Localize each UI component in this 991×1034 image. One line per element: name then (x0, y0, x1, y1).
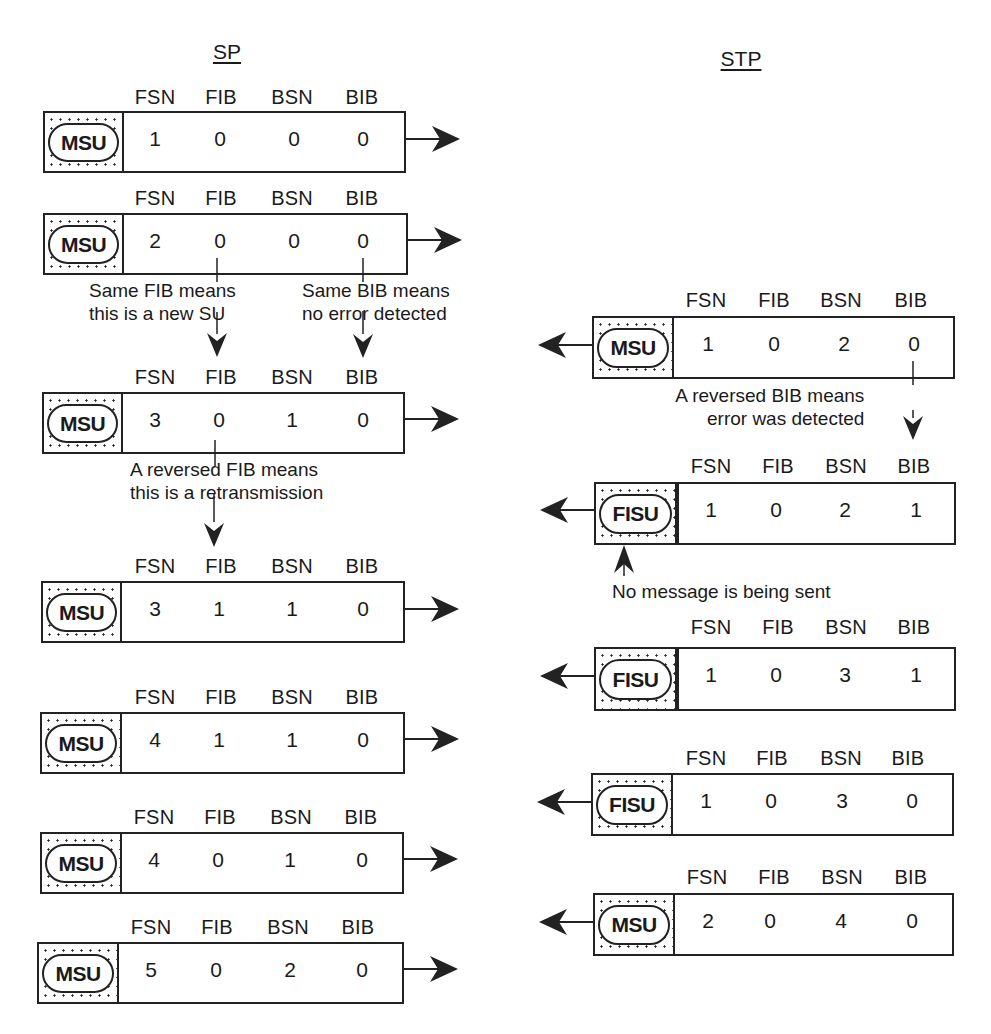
header-fib: FIB (758, 289, 790, 312)
fsn-value: 4 (148, 848, 160, 872)
header-bib: BIB (892, 747, 925, 770)
header-bsn: BSN (820, 289, 862, 312)
send-arrow-right-icon (405, 726, 459, 752)
bsn-value: 2 (838, 332, 850, 356)
header-bib: BIB (898, 455, 931, 478)
bib-value: 0 (357, 728, 369, 752)
bsn-value: 1 (284, 848, 296, 872)
pointer-arrow-down-icon (353, 334, 373, 358)
unit-type-badge: MSU (48, 123, 119, 162)
send-arrow-left-icon (540, 663, 594, 689)
header-fib: FIB (205, 187, 237, 210)
header-fsn: FSN (135, 187, 176, 210)
header-fsn: FSN (135, 366, 176, 389)
ss7-signal-unit-sequence-diagram: SP STP FSN FIB BSN BIB MSU 1 0 0 0 FSN F… (0, 0, 991, 1034)
fib-value: 0 (764, 909, 776, 933)
unit-type-cell: MSU (43, 583, 122, 641)
signal-unit-frame: MSU 1 0 0 0 (43, 111, 406, 173)
stp-title: STP (721, 47, 762, 71)
fsn-value: 1 (700, 789, 712, 813)
sp-title: SP (213, 40, 241, 64)
fib-value: 0 (214, 229, 226, 253)
header-fsn: FSN (135, 686, 176, 709)
unit-type-cell: MSU (594, 318, 674, 377)
annotation-no-message: No message is being sent (612, 580, 831, 603)
fib-value: 1 (213, 728, 225, 752)
bib-value: 0 (357, 597, 369, 621)
pointer-arrow-down-icon (207, 333, 227, 357)
unit-type-badge: MSU (42, 954, 114, 993)
header-fsn: FSN (691, 616, 732, 639)
header-bib: BIB (346, 187, 379, 210)
fsn-value: 2 (149, 229, 161, 253)
pointer-arrow-down-icon (903, 416, 923, 440)
send-arrow-right-icon (404, 846, 458, 872)
header-fib: FIB (205, 366, 237, 389)
header-bsn: BSN (825, 616, 867, 639)
unit-type-cell: MSU (42, 834, 122, 892)
header-bsn: BSN (271, 187, 313, 210)
header-fsn: FSN (686, 289, 727, 312)
fsn-value: 4 (149, 728, 161, 752)
header-fib: FIB (205, 686, 237, 709)
bib-value: 0 (906, 909, 918, 933)
signal-unit-frame: MSU 5 0 2 0 (37, 942, 404, 1004)
bib-value: 0 (356, 848, 368, 872)
bib-value: 0 (356, 958, 368, 982)
send-arrow-right-icon (404, 956, 458, 982)
header-bib: BIB (346, 366, 379, 389)
header-bsn: BSN (271, 686, 313, 709)
unit-type-badge: MSU (48, 225, 119, 264)
unit-type-badge: FISU (599, 494, 672, 534)
header-fsn: FSN (135, 555, 176, 578)
signal-unit-frame: MSU 4 0 1 0 (40, 832, 404, 894)
header-bib: BIB (895, 289, 928, 312)
fib-value: 1 (213, 597, 225, 621)
signal-unit-frame: FISU 1 0 2 1 (594, 482, 956, 545)
bsn-value: 1 (286, 408, 298, 432)
unit-type-badge: FISU (596, 785, 668, 825)
signal-unit-frame: MSU 1 0 2 0 (592, 316, 955, 379)
header-bsn: BSN (270, 806, 312, 829)
unit-type-badge: MSU (597, 328, 669, 368)
header-fsn: FSN (691, 455, 732, 478)
unit-type-cell: MSU (42, 714, 122, 772)
header-bsn: BSN (821, 866, 863, 889)
bib-value: 0 (357, 408, 369, 432)
unit-type-badge: MSU (45, 844, 117, 883)
header-bib: BIB (345, 806, 378, 829)
fsn-value: 2 (702, 909, 714, 933)
unit-type-badge: MSU (598, 905, 670, 945)
fib-value: 0 (213, 408, 225, 432)
send-arrow-right-icon (406, 126, 460, 152)
pointer-arrow-up-icon (614, 545, 634, 573)
fib-value: 0 (212, 848, 224, 872)
annotation-reversed-fib: A reversed FIB means this is a retransmi… (130, 458, 323, 504)
bsn-value: 1 (286, 728, 298, 752)
unit-type-cell: MSU (39, 944, 119, 1002)
fib-value: 0 (770, 663, 782, 687)
fsn-value: 3 (149, 597, 161, 621)
header-bsn: BSN (271, 366, 313, 389)
fsn-value: 1 (705, 498, 717, 522)
send-arrow-right-icon (405, 596, 459, 622)
fib-value: 0 (214, 127, 226, 151)
header-fsn: FSN (131, 916, 172, 939)
unit-type-badge: MSU (47, 404, 118, 443)
header-bsn: BSN (271, 555, 313, 578)
fib-value: 0 (768, 332, 780, 356)
header-fib: FIB (201, 916, 233, 939)
annotation-same-bib: Same BIB means no error detected (302, 279, 450, 325)
header-fib: FIB (758, 866, 790, 889)
header-fsn: FSN (686, 747, 727, 770)
send-arrow-left-icon (540, 497, 594, 523)
bib-value: 0 (906, 789, 918, 813)
header-bib: BIB (898, 616, 931, 639)
fsn-value: 1 (702, 332, 714, 356)
header-fib: FIB (762, 616, 794, 639)
signal-unit-frame: MSU 2 0 4 0 (593, 893, 954, 956)
bib-value: 0 (357, 229, 369, 253)
header-bsn: BSN (271, 86, 313, 109)
send-arrow-left-icon (539, 909, 593, 935)
unit-type-cell: FISU (596, 484, 679, 543)
